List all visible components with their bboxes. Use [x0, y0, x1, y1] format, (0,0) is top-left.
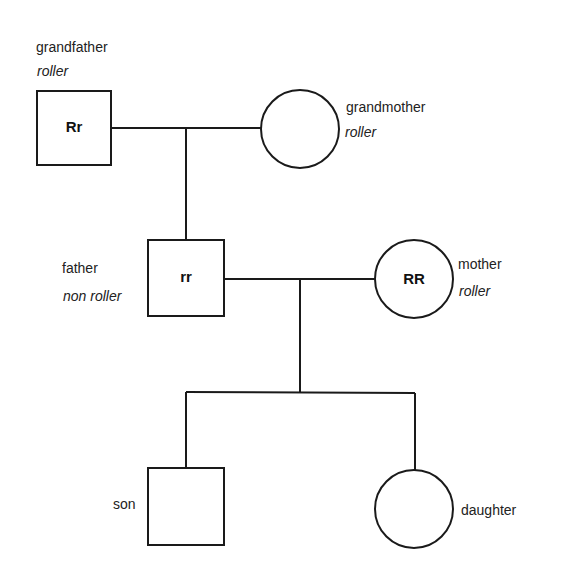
father-name: father — [62, 260, 98, 276]
son-name: son — [113, 496, 136, 512]
sibship-line — [186, 392, 415, 393]
father-genotype: rr — [148, 269, 224, 285]
father-phenotype: non roller — [63, 288, 121, 304]
grandmother-phenotype: roller — [345, 124, 376, 140]
mother-genotype: RR — [375, 271, 453, 287]
daughter-symbol — [375, 470, 453, 548]
son-symbol — [148, 468, 224, 545]
mother-name: mother — [458, 256, 502, 272]
grandfather-name: grandfather — [36, 39, 108, 55]
daughter-name: daughter — [461, 502, 516, 518]
mother-phenotype: roller — [459, 283, 490, 299]
grandfather-genotype: Rr — [37, 119, 111, 135]
grandfather-phenotype: roller — [37, 63, 68, 79]
grandmother-symbol — [261, 90, 339, 168]
grandmother-name: grandmother — [346, 99, 425, 115]
